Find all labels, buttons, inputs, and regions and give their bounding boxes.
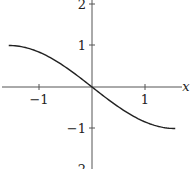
chart-plot: −1 1 2 1 −1 −2 x [0, 0, 192, 169]
x-tick-label-neg1: −1 [29, 92, 48, 107]
x-tick-label-1: 1 [141, 92, 149, 107]
y-tick-label-neg1: −1 [67, 121, 86, 136]
y-tick-label-1: 1 [78, 38, 86, 53]
y-tick-label-neg2: −2 [67, 162, 86, 169]
y-tick-label-2: 2 [78, 0, 86, 12]
x-axis-label: x [182, 79, 190, 94]
